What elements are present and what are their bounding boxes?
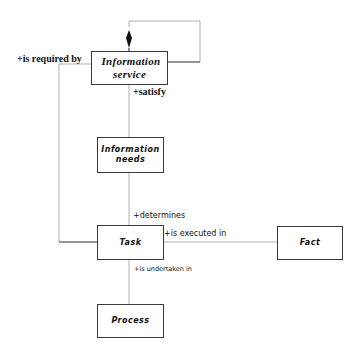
composition-diamond-icon xyxy=(126,30,132,48)
class-process[interactable]: Process xyxy=(97,304,164,338)
role-label-is-required-by: +is required by xyxy=(17,53,82,64)
class-label: Information needs xyxy=(101,145,161,165)
class-label: Task xyxy=(120,238,142,248)
class-information-needs[interactable]: Information needs xyxy=(97,137,164,173)
class-task[interactable]: Task xyxy=(97,225,164,260)
role-label-is-undertaken-in: +is undertaken in xyxy=(134,265,192,273)
class-label: Information service xyxy=(102,55,158,81)
role-label-satisfy: +satisfy xyxy=(133,86,166,97)
class-fact[interactable]: Fact xyxy=(277,226,343,260)
class-label: Process xyxy=(111,316,149,326)
is-required-by-connector xyxy=(59,64,97,242)
class-label: Fact xyxy=(300,238,321,248)
role-label-determines: +determines xyxy=(133,211,185,220)
class-information-service[interactable]: Information service xyxy=(91,51,168,85)
uml-diagram-canvas: Information service Information needs Ta… xyxy=(0,0,363,354)
role-label-is-executed-in: +is executed in xyxy=(164,229,226,238)
